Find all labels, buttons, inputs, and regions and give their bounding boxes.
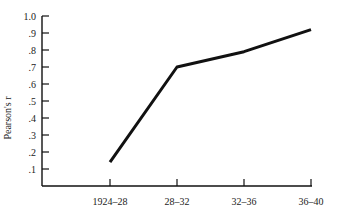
x-tick-label: 32–36 xyxy=(232,196,257,207)
x-tick-label: 36–40 xyxy=(299,196,324,207)
y-tick-label: 1.0 xyxy=(24,11,37,22)
y-axis: 1.0.9.8.7.6.5.4.3.2.1 xyxy=(24,11,50,187)
y-tick-label: .1 xyxy=(29,164,37,175)
x-tick-label: 1924–28 xyxy=(93,196,128,207)
y-axis-title: Pearson's r xyxy=(2,96,13,140)
x-axis: 1924–2828–3232–3636–40 xyxy=(42,179,324,207)
y-tick-label: .2 xyxy=(29,147,37,158)
y-tick-label: .3 xyxy=(29,130,37,141)
data-series xyxy=(110,30,311,163)
y-tick-label: .7 xyxy=(29,62,37,73)
y-tick-label: .6 xyxy=(29,79,37,90)
series-line xyxy=(110,30,311,163)
y-tick-label: .8 xyxy=(29,45,37,56)
x-tick-label: 28–32 xyxy=(165,196,190,207)
y-tick-label: .5 xyxy=(29,96,37,107)
y-tick-label: .4 xyxy=(29,113,37,124)
y-tick-label: .9 xyxy=(29,28,37,39)
line-chart: 1.0.9.8.7.6.5.4.3.2.1 1924–2828–3232–363… xyxy=(0,0,340,214)
